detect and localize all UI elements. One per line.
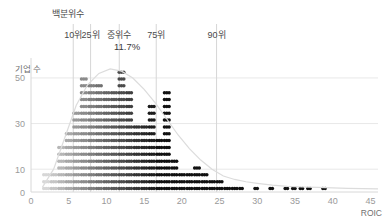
x-tick-label-15: 15: [139, 196, 149, 206]
x-axis-title: ROIC: [361, 208, 382, 218]
density-dot: [167, 139, 171, 143]
density-dot: [167, 146, 171, 150]
x-tick-label-45: 45: [365, 196, 375, 206]
y-tick-label-10: 10: [15, 165, 25, 175]
density-dot: [167, 125, 171, 129]
dot-density-group: [42, 70, 327, 190]
density-dot: [167, 98, 171, 102]
density-dot: [99, 84, 103, 88]
x-tick-label-0: 0: [28, 196, 33, 206]
y-tick-labels-group: 0103050: [15, 73, 25, 197]
x-tick-label-40: 40: [328, 196, 338, 206]
x-tick-label-35: 35: [290, 196, 300, 206]
x-tick-label-30: 30: [252, 196, 262, 206]
y-tick-label-30: 30: [15, 119, 25, 129]
median-value-label: 11.7%: [114, 41, 141, 52]
density-dot: [198, 166, 202, 170]
density-dot: [130, 105, 134, 109]
density-dot: [167, 132, 171, 136]
x-tick-labels-group: 051015202530354045: [28, 196, 375, 206]
density-dot: [130, 111, 134, 115]
percentile-annotations-group: 10위25위중위수75위90위: [64, 30, 225, 40]
percentile-header-label: 백분위수: [52, 9, 84, 19]
density-dot: [220, 180, 224, 184]
x-tick-label-10: 10: [101, 196, 111, 206]
density-dot: [286, 187, 290, 191]
y-tick-label-0: 0: [20, 188, 25, 198]
density-dot: [84, 77, 88, 81]
density-dot: [152, 111, 156, 115]
density-dot: [152, 125, 156, 129]
density-dot: [175, 166, 179, 170]
percentile-label-p75: 75위: [147, 30, 165, 40]
density-dot: [130, 91, 134, 95]
density-dot: [167, 111, 171, 115]
percentile-label-p90: 90위: [208, 30, 226, 40]
density-dot: [152, 105, 156, 109]
roic-distribution-chart: 051015202530354045 0103050 10위25위중위수75위9…: [0, 0, 386, 222]
density-dot: [122, 77, 126, 81]
density-dot: [167, 91, 171, 95]
density-dot: [167, 153, 171, 157]
percentile-label-p50: 중위수: [107, 30, 131, 40]
density-dot: [122, 84, 126, 88]
y-axis-title: 기업 수: [15, 64, 41, 74]
y-tick-label-50: 50: [15, 73, 25, 83]
x-tick-label-5: 5: [66, 196, 71, 206]
density-dot: [175, 159, 179, 163]
density-dot: [167, 105, 171, 109]
percentile-label-p25: 25위: [82, 30, 100, 40]
percentile-label-p10: 10위: [64, 30, 82, 40]
density-dot: [271, 187, 275, 191]
density-dot: [152, 118, 156, 122]
density-dot: [152, 132, 156, 136]
chart-canvas: 051015202530354045 0103050 10위25위중위수75위9…: [0, 0, 386, 222]
x-tick-label-25: 25: [215, 196, 225, 206]
density-dot: [240, 187, 244, 191]
density-dot: [130, 118, 134, 122]
density-dot: [130, 98, 134, 102]
density-dot: [205, 173, 209, 177]
density-dot: [256, 187, 260, 191]
x-tick-label-20: 20: [177, 196, 187, 206]
